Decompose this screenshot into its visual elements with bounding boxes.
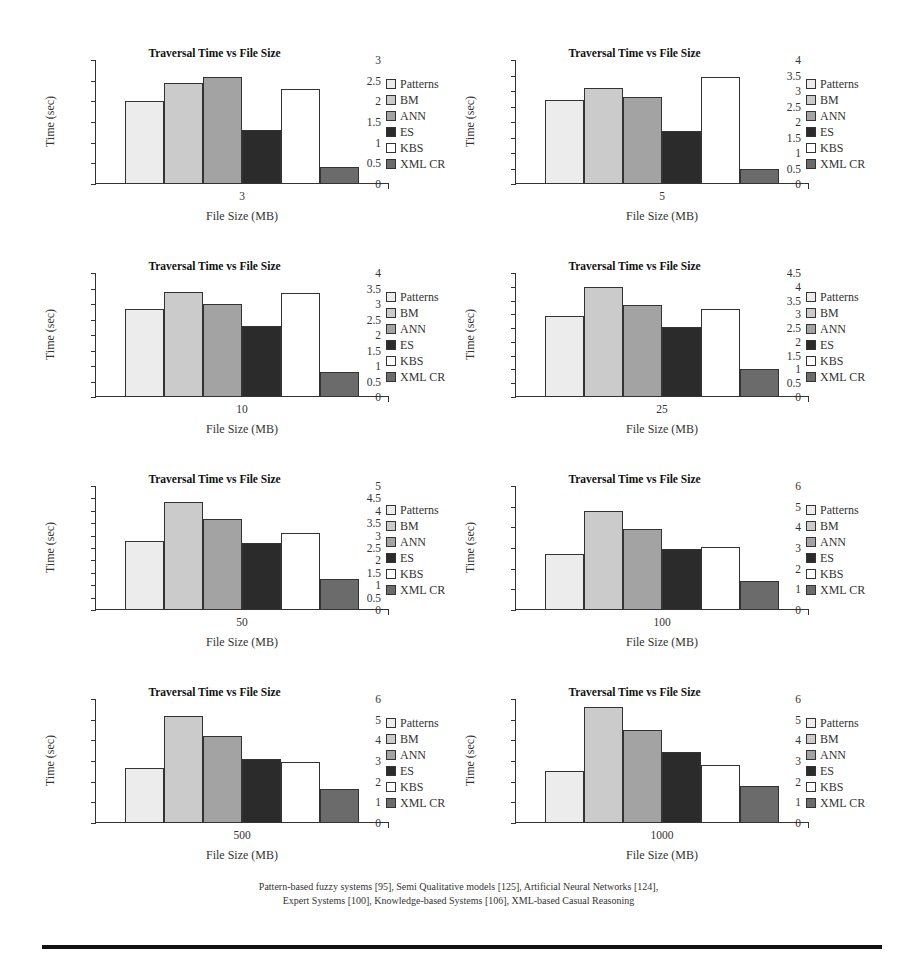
bar-bm bbox=[584, 511, 623, 610]
y-tick bbox=[511, 122, 516, 123]
legend-swatch bbox=[386, 718, 396, 728]
y-tick-label: 1.5 bbox=[367, 116, 381, 128]
legend: PatternsBMANNESKBSXML CR bbox=[386, 289, 445, 385]
legend-item-ann: ANN bbox=[806, 747, 865, 763]
legend-swatch bbox=[806, 111, 816, 121]
legend-label: ANN bbox=[820, 109, 846, 124]
y-tick-label: 0.5 bbox=[367, 157, 381, 169]
y-tick bbox=[511, 342, 516, 343]
legend-label: ANN bbox=[400, 535, 426, 550]
legend-item-xml-cr: XML CR bbox=[386, 156, 445, 172]
bar-es bbox=[242, 130, 281, 184]
x-category-label: 100 bbox=[632, 616, 692, 628]
legend-label: ANN bbox=[400, 109, 426, 124]
legend-swatch bbox=[386, 143, 396, 153]
y-tick bbox=[511, 91, 516, 92]
bar-es bbox=[242, 326, 281, 397]
bar-patterns bbox=[125, 309, 164, 397]
legend-item-es: ES bbox=[806, 550, 865, 566]
legend-item-es: ES bbox=[386, 550, 445, 566]
legend-swatch bbox=[386, 798, 396, 808]
legend: PatternsBMANNESKBSXML CR bbox=[806, 715, 865, 811]
y-tick bbox=[511, 527, 516, 528]
bar-kbs bbox=[701, 77, 740, 184]
figure-caption: Pattern-based fuzzy systems [95], Semi Q… bbox=[0, 880, 917, 908]
y-tick bbox=[91, 761, 96, 762]
legend-item-es: ES bbox=[386, 763, 445, 779]
legend-item-es: ES bbox=[806, 124, 865, 140]
y-tick-label: 0.5 bbox=[367, 592, 381, 604]
legend-item-bm: BM bbox=[806, 731, 865, 747]
bar-ann bbox=[623, 305, 662, 397]
y-tick-label: 0 bbox=[375, 178, 381, 190]
legend-item-bm: BM bbox=[386, 731, 445, 747]
bar-xml-cr bbox=[740, 581, 779, 610]
legend-item-patterns: Patterns bbox=[806, 502, 865, 518]
legend-label: ES bbox=[400, 125, 414, 140]
legend-label: ANN bbox=[820, 322, 846, 337]
y-tick bbox=[511, 720, 516, 721]
legend-swatch bbox=[806, 782, 816, 792]
legend-item-bm: BM bbox=[806, 92, 865, 108]
legend-label: KBS bbox=[400, 354, 423, 369]
y-tick-label: 1.5 bbox=[787, 350, 801, 362]
legend-label: KBS bbox=[820, 780, 843, 795]
bar-chart-5mb: Traversal Time vs File SizeTime (sec)00.… bbox=[460, 45, 880, 250]
legend-label: ANN bbox=[400, 748, 426, 763]
x-axis-label: File Size (MB) bbox=[582, 635, 742, 650]
y-tick-label: 0 bbox=[795, 817, 801, 829]
y-tick bbox=[511, 301, 516, 302]
legend-swatch bbox=[806, 308, 816, 318]
y-axis-label: Time (sec) bbox=[43, 508, 58, 588]
y-tick-label: 0 bbox=[375, 817, 381, 829]
x-axis-label: File Size (MB) bbox=[162, 635, 322, 650]
y-tick bbox=[91, 320, 96, 321]
y-tick-label: 3 bbox=[795, 755, 801, 767]
chart-title: Traversal Time vs File Size bbox=[40, 260, 389, 272]
y-tick-label: 1 bbox=[795, 583, 801, 595]
x-category-label: 3 bbox=[212, 190, 272, 202]
x-axis bbox=[515, 609, 809, 611]
y-tick-label: 4 bbox=[795, 54, 801, 66]
legend-item-patterns: Patterns bbox=[806, 289, 865, 305]
legend-swatch bbox=[806, 718, 816, 728]
legend-item-xml-cr: XML CR bbox=[806, 156, 865, 172]
bar-kbs bbox=[701, 547, 740, 610]
legend-item-ann: ANN bbox=[386, 534, 445, 550]
legend-item-es: ES bbox=[806, 337, 865, 353]
legend-label: ES bbox=[820, 338, 834, 353]
y-tick-label: 1 bbox=[795, 147, 801, 159]
legend-label: KBS bbox=[820, 141, 843, 156]
legend-item-kbs: KBS bbox=[386, 140, 445, 156]
y-tick-label: 1 bbox=[375, 137, 381, 149]
bar-es bbox=[662, 752, 701, 823]
y-tick-label: 1.5 bbox=[367, 567, 381, 579]
chart-title: Traversal Time vs File Size bbox=[460, 47, 809, 59]
x-axis bbox=[95, 822, 389, 824]
x-axis bbox=[95, 396, 389, 398]
legend-swatch bbox=[806, 372, 816, 382]
y-axis bbox=[515, 273, 516, 397]
legend-swatch bbox=[386, 766, 396, 776]
x-axis-end-tick bbox=[388, 396, 389, 402]
y-tick-label: 3 bbox=[375, 530, 381, 542]
bar-patterns bbox=[545, 316, 584, 397]
legend-item-bm: BM bbox=[806, 518, 865, 534]
y-tick-label: 3 bbox=[795, 85, 801, 97]
legend-item-kbs: KBS bbox=[386, 566, 445, 582]
y-tick-label: 6 bbox=[375, 693, 381, 705]
x-axis bbox=[515, 183, 809, 185]
legend-label: Patterns bbox=[400, 290, 439, 305]
legend-item-kbs: KBS bbox=[386, 353, 445, 369]
bar-bm bbox=[164, 83, 203, 184]
bar-ann bbox=[623, 730, 662, 823]
plot-area: 0123456 bbox=[95, 699, 389, 823]
bar-es bbox=[662, 549, 701, 610]
legend-label: BM bbox=[820, 519, 839, 534]
legend-label: KBS bbox=[400, 780, 423, 795]
y-tick bbox=[511, 184, 516, 185]
y-tick bbox=[511, 782, 516, 783]
bar-chart-25mb: Traversal Time vs File SizeTime (sec)00.… bbox=[460, 258, 880, 463]
legend-label: BM bbox=[400, 306, 419, 321]
legend-swatch bbox=[386, 750, 396, 760]
